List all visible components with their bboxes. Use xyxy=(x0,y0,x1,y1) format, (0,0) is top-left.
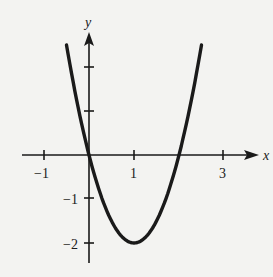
x-tick-label-minus1: −1 xyxy=(34,166,49,181)
x-tick-label-3: 3 xyxy=(219,166,226,181)
y-tick-label-minus2: −2 xyxy=(63,237,78,252)
parabola-curve xyxy=(67,45,202,243)
x-axis-label: x xyxy=(262,148,270,163)
parabola-plot: x y −1 1 3 −1 −2 xyxy=(0,0,273,277)
x-tick-label-1: 1 xyxy=(130,166,137,181)
y-tick-label-minus1: −1 xyxy=(63,192,78,207)
y-axis-label: y xyxy=(83,15,92,30)
